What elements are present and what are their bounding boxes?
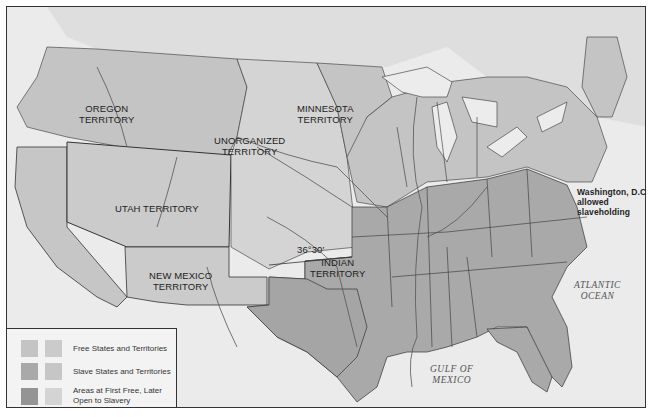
legend-item-slave: Slave States and Territories (21, 363, 183, 380)
label-parallel: 36°30′ (297, 244, 324, 255)
label-utah: UTAH TERRITORY (115, 203, 199, 214)
label-gulf-of-mexico: GULF OF MEXICO (430, 364, 473, 386)
legend-swatch-slave-a (21, 363, 38, 380)
label-dc-line1: Washington, D.C., (577, 187, 646, 197)
label-unorganized-line2: TERRITORY (214, 146, 285, 157)
label-oregon: OREGON TERRITORY (79, 103, 134, 125)
legend-swatch-slave-b (45, 363, 62, 380)
label-gulf-line1: GULF OF (430, 364, 473, 375)
label-dc-line2: allowed (577, 197, 646, 207)
label-indian-line2: TERRITORY (310, 268, 365, 279)
legend-label-first-free: Areas at First Free, Later Open to Slave… (73, 386, 183, 406)
label-new-mexico-line2: TERRITORY (149, 281, 212, 292)
label-atlantic-ocean: ATLANTIC OCEAN (574, 280, 621, 302)
legend-label-free: Free States and Territories (73, 344, 183, 354)
label-unorganized-line1: UNORGANIZED (214, 135, 285, 146)
label-gulf-line2: MEXICO (430, 375, 473, 386)
legend-swatch-free-b (45, 340, 62, 357)
label-oregon-line2: TERRITORY (79, 114, 134, 125)
legend-swatch-free-a (21, 340, 38, 357)
label-indian-line1: INDIAN (310, 257, 365, 268)
label-unorganized: UNORGANIZED TERRITORY (214, 135, 285, 157)
label-minnesota-line2: TERRITORY (297, 114, 354, 125)
label-washington-dc: Washington, D.C., allowed slaveholding (577, 187, 646, 217)
utah-territory (67, 142, 231, 247)
label-oregon-line1: OREGON (79, 103, 134, 114)
label-new-mexico-line1: NEW MEXICO (149, 270, 212, 281)
label-minnesota-line1: MINNESOTA (297, 103, 354, 114)
label-atlantic-line2: OCEAN (574, 291, 621, 302)
label-indian: INDIAN TERRITORY (310, 257, 365, 279)
legend-swatch-first-free-b (45, 388, 62, 405)
legend-item-first-free: Areas at First Free, Later Open to Slave… (21, 386, 183, 406)
label-new-mexico: NEW MEXICO TERRITORY (149, 270, 212, 292)
legend-swatch-first-free-a (21, 388, 38, 405)
label-atlantic-line1: ATLANTIC (574, 280, 621, 291)
map-frame: OREGON TERRITORY MINNESOTA TERRITORY UNO… (6, 6, 646, 408)
map-legend: Free States and Territories Slave States… (7, 328, 177, 408)
legend-item-free: Free States and Territories (21, 340, 183, 357)
legend-label-slave: Slave States and Territories (73, 367, 183, 377)
label-minnesota: MINNESOTA TERRITORY (297, 103, 354, 125)
label-dc-line3: slaveholding (577, 207, 646, 217)
